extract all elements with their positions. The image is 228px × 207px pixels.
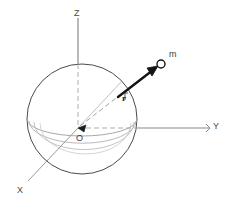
radius-vector-origin-arrowhead (78, 125, 86, 132)
z-axis-label: Z (74, 9, 80, 18)
mass-point-marker (157, 60, 165, 68)
physics-diagram-canvas: Z Y X O r m (0, 0, 228, 207)
x-axis-line-back (78, 81, 122, 128)
sphere-outline (27, 64, 137, 174)
x-axis-label: X (17, 186, 23, 195)
origin-label: O (76, 134, 83, 143)
radius-vector-label: r (122, 94, 126, 103)
y-axis-label: Y (213, 122, 219, 131)
diagram-svg (0, 0, 228, 207)
mass-point-label: m (169, 50, 177, 59)
